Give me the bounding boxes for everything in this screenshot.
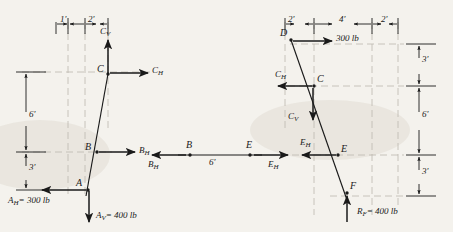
dim-4ft-label: 4': [339, 15, 345, 24]
dim-6ft-label: 6': [29, 110, 35, 119]
force-cv-right-label: CV: [288, 112, 298, 123]
point-b-mid-label: B: [186, 140, 192, 150]
point-b-label: B: [85, 142, 91, 152]
force-bh-label: BH: [139, 146, 150, 157]
dim-span-6ft-label: 6': [209, 158, 215, 167]
dim-3ft-label: 3': [29, 163, 35, 172]
dim-1ft-label: 1': [60, 15, 66, 24]
point-f-label: F: [350, 181, 356, 191]
force-ch-label: CH: [152, 66, 163, 77]
diagram-canvas: [0, 0, 453, 232]
member-be-body: [178, 153, 262, 156]
dim-left-vertical: [16, 72, 46, 190]
point-e-mid-label: E: [246, 140, 252, 150]
force-ah-label: AH= 300 lb: [8, 196, 50, 207]
dim-3ft-top-label: 3': [422, 55, 428, 64]
point-c-right-label: C: [317, 74, 324, 84]
dim-2ft-label: 2': [88, 15, 94, 24]
point-a-label: A: [76, 178, 82, 188]
point-c-label: C: [97, 64, 104, 74]
member-dcef-forces: [278, 41, 347, 222]
member-abc-body: [86, 74, 108, 196]
point-d-label: D: [280, 28, 287, 38]
force-bh-mid-label: BH: [148, 160, 159, 171]
force-300lb-label: 300 lb: [336, 34, 359, 43]
force-rf-label: RF= 400 lb: [357, 207, 398, 218]
force-cv-label: CV: [100, 27, 110, 38]
member-abc-forces: [42, 40, 148, 222]
dim-2ft-a-label: 2': [288, 15, 294, 24]
dim-2ft-b-label: 2': [381, 15, 387, 24]
drawing-sheet: 1' 2' 6' 3' C B A CV CH BH AH= 300 lb AV…: [0, 0, 453, 232]
dim-right-vertical: [406, 44, 436, 196]
force-eh-right-label: EH: [300, 138, 311, 149]
force-eh-mid-label: EH: [268, 160, 279, 171]
force-av-label: AV= 400 lb: [96, 211, 137, 222]
dim-6ft-right-label: 6': [422, 110, 428, 119]
dim-3ft-bottom-label: 3': [422, 167, 428, 176]
force-ch-right-label: CH: [275, 70, 286, 81]
point-e-right-label: E: [341, 144, 347, 154]
